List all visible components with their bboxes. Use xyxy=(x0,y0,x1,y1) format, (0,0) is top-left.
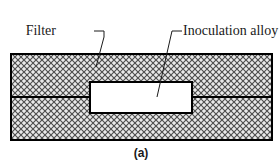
cross-section-diagram: Filter Inoculation alloy (a) xyxy=(0,0,280,163)
inoculation-alloy-label: Inoculation alloy xyxy=(183,23,278,38)
filter-label: Filter xyxy=(26,23,57,38)
figure-container: Filter Inoculation alloy (a) xyxy=(0,0,280,163)
inoculation-alloy-insert xyxy=(90,82,192,113)
figure-caption: (a) xyxy=(134,146,149,160)
